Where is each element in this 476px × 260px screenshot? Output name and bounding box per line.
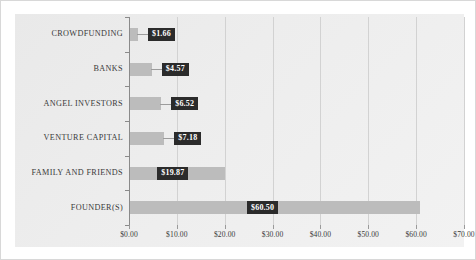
category-label: CROWDFUNDING: [1, 29, 123, 39]
y-axis-tick: [125, 121, 129, 122]
data-label: $4.57: [162, 63, 189, 76]
x-axis-tick-label: $60.00: [405, 230, 426, 239]
category-label: VENTURE CAPITAL: [1, 133, 123, 143]
gridline: [273, 17, 274, 225]
y-axis-tick: [125, 156, 129, 157]
gridline: [368, 17, 369, 225]
y-axis-tick: [125, 52, 129, 53]
category-label: FOUNDER(S): [1, 203, 123, 213]
y-axis-line: [129, 17, 130, 225]
x-axis-tick: [225, 225, 226, 229]
gridline: [225, 17, 226, 225]
leader-line: [160, 104, 171, 105]
y-axis-tick: [125, 190, 129, 191]
leader-line: [163, 138, 174, 139]
x-axis-tick-label: $70.00: [453, 230, 474, 239]
x-axis-tick: [368, 225, 369, 229]
x-axis-tick: [273, 225, 274, 229]
gridline: [177, 17, 178, 225]
leader-line: [151, 69, 162, 70]
bar: [130, 132, 164, 145]
bar: [130, 63, 152, 76]
x-axis-tick: [129, 225, 130, 229]
x-axis-tick-label: $20.00: [214, 230, 235, 239]
x-axis-tick: [416, 225, 417, 229]
category-label: BANKS: [1, 64, 123, 74]
data-label: $60.50: [247, 201, 278, 214]
data-label: $6.52: [171, 97, 198, 110]
x-axis-tick: [320, 225, 321, 229]
x-axis-tick-label: $30.00: [262, 230, 283, 239]
x-axis-tick-label: $0.00: [120, 230, 138, 239]
chart-frame: CROWDFUNDINGBANKSANGEL INVESTORSVENTURE …: [0, 0, 476, 260]
x-axis-tick-label: $40.00: [310, 230, 331, 239]
gridline: [464, 17, 465, 225]
data-label: $7.18: [174, 132, 201, 145]
x-axis-tick-label: $50.00: [358, 230, 379, 239]
category-label: FAMILY AND FRIENDS: [1, 168, 123, 178]
gridline: [416, 17, 417, 225]
x-axis-tick: [464, 225, 465, 229]
gridline: [320, 17, 321, 225]
data-label: $1.66: [148, 28, 175, 41]
bar: [130, 97, 161, 110]
data-label: $19.87: [157, 167, 188, 180]
x-axis-tick-label: $10.00: [166, 230, 187, 239]
y-axis-tick: [125, 86, 129, 87]
y-axis-tick: [125, 17, 129, 18]
x-axis-tick: [177, 225, 178, 229]
category-label: ANGEL INVESTORS: [1, 99, 123, 109]
leader-line: [137, 34, 148, 35]
